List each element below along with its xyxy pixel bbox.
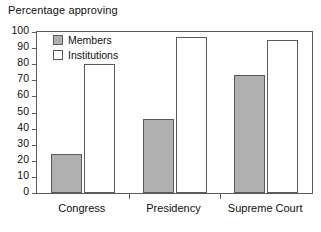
y-axis-tick-label: 50	[17, 106, 29, 117]
y-axis-tick-label: 40	[17, 122, 29, 133]
x-axis-tick-mark	[129, 194, 130, 199]
x-axis: CongressPresidencySupreme Court	[36, 194, 313, 228]
legend-item-institutions: Institutions	[53, 48, 149, 62]
y-axis-tick-label: 80	[17, 57, 29, 68]
bar-chart: Percentage approving 1009080706050403020…	[0, 0, 321, 232]
bar-institutions-supreme-court	[267, 40, 298, 193]
x-axis-label-presidency: Presidency	[128, 202, 220, 214]
x-axis-tick-mark	[220, 194, 221, 199]
chart-legend: MembersInstitutions	[53, 33, 149, 63]
y-axis-tick-label: 70	[17, 73, 29, 84]
y-axis-tick-label: 30	[17, 138, 29, 149]
legend-swatch-members	[53, 35, 63, 45]
legend-swatch-institutions	[53, 50, 63, 60]
bar-institutions-presidency	[176, 37, 207, 193]
bar-institutions-congress	[84, 64, 115, 193]
y-axis-tick-label: 100	[11, 25, 29, 36]
y-axis: 1009080706050403020100	[0, 31, 36, 194]
y-axis-tick-label: 90	[17, 41, 29, 52]
bar-members-supreme-court	[234, 75, 265, 193]
x-axis-label-supreme-court: Supreme Court	[219, 202, 311, 214]
legend-item-members: Members	[53, 33, 149, 47]
bar-group	[234, 32, 298, 193]
y-axis-tick-label: 10	[17, 170, 29, 181]
bar-members-congress	[51, 154, 82, 193]
bar-group	[143, 32, 207, 193]
x-axis-label-congress: Congress	[36, 202, 128, 214]
y-axis-tick-label: 0	[23, 186, 29, 197]
y-axis-tick-label: 20	[17, 154, 29, 165]
legend-label: Institutions	[68, 50, 118, 61]
y-axis-tick-label: 60	[17, 89, 29, 100]
legend-label: Members	[68, 35, 112, 46]
bar-members-presidency	[143, 119, 174, 193]
chart-title: Percentage approving	[8, 4, 118, 16]
